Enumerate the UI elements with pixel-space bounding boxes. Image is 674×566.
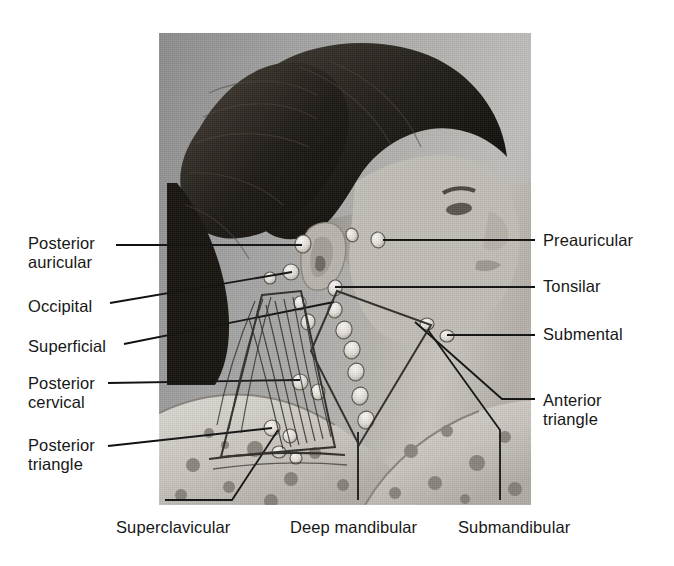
label-occipital: Occipital — [28, 297, 92, 316]
clavicle — [209, 453, 345, 459]
label-superficial: Superficial — [28, 337, 106, 356]
label-supraclavicular: Superclavicular — [116, 518, 230, 537]
label-tonsilar: Tonsilar — [543, 277, 601, 296]
label-submental: Submental — [543, 325, 623, 344]
label-posterior-auricular: Posterior auricular — [28, 234, 95, 272]
label-posterior-triangle: Posterior triangle — [28, 436, 95, 474]
profile-photograph — [159, 33, 531, 505]
label-anterior-triangle: Anterior triangle — [543, 391, 602, 429]
label-posterior-cervical: Posterior cervical — [28, 374, 95, 412]
label-submandibular: Submandibular — [458, 518, 570, 537]
clavicle-lower — [213, 463, 347, 469]
label-preauricular: Preauricular — [543, 231, 633, 250]
lymph-node-figure: Posterior auricularOccipitalSuperficialP… — [0, 0, 674, 566]
anatomy-line-overlay — [159, 33, 531, 505]
label-deep-mandibular: Deep mandibular — [290, 518, 417, 537]
